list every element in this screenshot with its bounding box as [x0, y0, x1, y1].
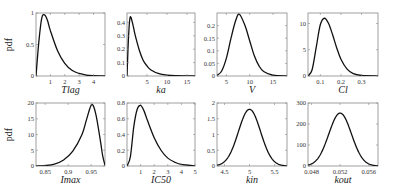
y-tick-label: 0	[212, 162, 215, 169]
axes-frame	[36, 13, 105, 76]
y-tick-label: 200	[296, 120, 306, 127]
y-axis-label: pdf	[3, 37, 14, 51]
x-axis-label: Imax	[60, 174, 82, 185]
subplot-v: 5101500.050.10.150.2V	[204, 13, 287, 95]
y-tick-label: 0	[303, 72, 306, 79]
x-tick-label: 4.5	[220, 168, 228, 175]
y-tick-label: 0.05	[204, 60, 215, 67]
subplot-ic50: 1234500.20.40.60.8IC50	[117, 99, 197, 185]
pdf-curve	[127, 105, 195, 166]
y-tick-label: 0.1	[207, 47, 215, 54]
y-tick-label: 0.5	[26, 41, 34, 48]
x-axis-label: Tlag	[61, 84, 79, 95]
x-tick-label: 5	[225, 78, 228, 85]
axes-frame	[36, 103, 105, 166]
x-tick-label: 0.1	[316, 78, 324, 85]
y-tick-label: 0.3	[117, 32, 125, 39]
y-tick-label: 0.15	[204, 35, 215, 42]
y-tick-label: 0.1	[117, 59, 125, 66]
x-tick-label: 15	[184, 78, 191, 85]
axes-frame	[217, 103, 287, 166]
subplot-tlag: 123400.51Tlagpdf	[3, 9, 105, 95]
x-axis-label: kout	[334, 174, 351, 185]
x-tick-label: 15	[270, 78, 277, 85]
subplot-imax: 0.850.90.9505101520Imaxpdf	[3, 99, 105, 185]
pdf-curve	[308, 18, 378, 76]
pdf-curve	[217, 14, 287, 76]
y-tick-label: 0.2	[117, 147, 125, 154]
y-tick-label: 5	[31, 147, 34, 154]
x-tick-label: 0.95	[86, 168, 97, 175]
pdf-curve	[36, 15, 105, 76]
x-tick-label: 0.3	[357, 78, 365, 85]
subplot-cl: 0.10.20.30510Cl	[300, 13, 379, 95]
y-tick-label: 0.8	[117, 99, 125, 106]
x-axis-label: Cl	[338, 84, 348, 95]
x-tick-label: 5	[193, 168, 196, 175]
axes-frame	[308, 13, 378, 76]
y-tick-label: 5	[303, 46, 306, 53]
y-tick-label: 10	[300, 20, 307, 27]
y-tick-label: 0.2	[117, 45, 125, 52]
x-axis-label: kin	[246, 174, 258, 185]
y-tick-label: 15	[28, 115, 35, 122]
y-tick-label: 1.5	[207, 115, 215, 122]
y-tick-label: 300	[296, 99, 306, 106]
axes-frame	[217, 13, 287, 76]
subplot-kin: 4.555.500.511.52kin	[207, 99, 287, 185]
pdf-curve	[308, 113, 378, 166]
x-axis-label: V	[249, 84, 257, 95]
subplot-ka: 5101500.10.20.30.4ka	[117, 13, 195, 95]
y-tick-label: 0.5	[207, 147, 215, 154]
y-tick-label: 1	[31, 9, 34, 16]
figure-canvas: 123400.51Tlagpdf5101500.10.20.30.4ka5101…	[0, 0, 396, 192]
y-tick-label: 0.6	[117, 115, 126, 122]
y-tick-label: 20	[28, 99, 35, 106]
subplot-kout: 0.0480.0520.0560100200300kout	[296, 99, 378, 185]
y-tick-label: 2	[212, 99, 215, 106]
y-tick-label: 0	[122, 72, 125, 79]
y-tick-label: 0.4	[117, 131, 126, 138]
y-tick-label: 0.4	[117, 19, 126, 26]
y-tick-label: 100	[296, 141, 306, 148]
x-tick-label: 5	[145, 78, 148, 85]
x-tick-label: 4	[180, 168, 184, 175]
y-tick-label: 1	[212, 131, 215, 138]
y-tick-label: 0	[31, 162, 34, 169]
pdf-curve	[36, 104, 105, 165]
y-tick-label: 0	[31, 72, 34, 79]
x-tick-label: 4	[92, 78, 96, 85]
x-axis-label: IC50	[150, 174, 171, 185]
x-tick-label: 1	[139, 168, 142, 175]
pdf-curve	[127, 17, 195, 76]
y-tick-label: 0	[303, 162, 306, 169]
y-tick-label: 0	[212, 72, 215, 79]
x-tick-label: 0.056	[361, 168, 376, 175]
x-tick-label: 0.048	[304, 168, 319, 175]
x-tick-label: 0.85	[40, 168, 51, 175]
x-tick-label: 5.5	[270, 168, 278, 175]
x-axis-label: ka	[156, 84, 165, 95]
axes-frame	[127, 103, 195, 166]
y-axis-label: pdf	[3, 127, 14, 141]
y-tick-label: 0.2	[207, 22, 215, 29]
y-tick-label: 0	[122, 162, 125, 169]
x-tick-label: 1	[49, 78, 52, 85]
y-tick-label: 10	[28, 131, 35, 138]
pdf-curve	[217, 109, 287, 166]
